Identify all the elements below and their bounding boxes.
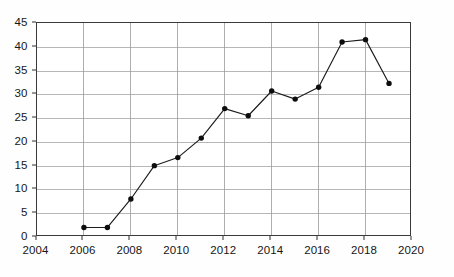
y-tick-label: 10 <box>0 182 28 194</box>
y-tick-mark <box>32 45 36 46</box>
y-tick-mark <box>32 22 36 23</box>
x-tick-label: 2012 <box>210 244 236 256</box>
y-tick-mark <box>32 164 36 165</box>
data-point-marker <box>175 155 180 160</box>
x-tick-mark <box>223 236 224 240</box>
y-tick-label: 40 <box>0 40 28 52</box>
data-point-marker <box>315 85 320 90</box>
x-tick-mark <box>176 236 177 240</box>
x-tick-mark <box>411 236 412 240</box>
x-tick-label: 2020 <box>398 244 424 256</box>
data-point-marker <box>386 81 391 86</box>
data-point-marker <box>222 106 227 111</box>
data-point-marker <box>104 225 109 230</box>
y-tick-label: 5 <box>0 206 28 218</box>
y-tick-label: 35 <box>0 64 28 76</box>
x-tick-mark <box>129 236 130 240</box>
plot-area <box>36 22 412 236</box>
x-tick-label: 2016 <box>304 244 330 256</box>
x-tick-mark <box>82 236 83 240</box>
series-markers <box>81 37 391 230</box>
data-point-marker <box>245 113 250 118</box>
y-tick-mark <box>32 117 36 118</box>
data-series-layer <box>37 23 413 237</box>
y-tick-label: 0 <box>0 230 28 242</box>
line-chart: 051015202530354045 200420062008201020122… <box>0 0 454 277</box>
data-point-marker <box>292 96 297 101</box>
y-tick-label: 30 <box>0 87 28 99</box>
data-point-marker <box>362 37 367 42</box>
y-tick-label: 45 <box>0 16 28 28</box>
data-point-marker <box>128 196 133 201</box>
data-point-marker <box>268 88 273 93</box>
x-tick-label: 2014 <box>257 244 283 256</box>
y-tick-mark <box>32 212 36 213</box>
y-tick-mark <box>32 188 36 189</box>
data-point-marker <box>198 135 203 140</box>
data-point-marker <box>339 39 344 44</box>
x-tick-mark <box>270 236 271 240</box>
x-tick-label: 2006 <box>69 244 95 256</box>
y-tick-mark <box>32 140 36 141</box>
x-tick-mark <box>35 236 36 240</box>
x-tick-label: 2010 <box>163 244 189 256</box>
x-tick-label: 2008 <box>116 244 142 256</box>
y-tick-label: 20 <box>0 135 28 147</box>
x-tick-mark <box>317 236 318 240</box>
x-tick-label: 2018 <box>351 244 377 256</box>
y-tick-mark <box>32 69 36 70</box>
x-tick-label: 2004 <box>23 244 49 256</box>
x-tick-mark <box>364 236 365 240</box>
data-point-marker <box>151 163 156 168</box>
data-point-marker <box>81 225 86 230</box>
y-tick-label: 15 <box>0 159 28 171</box>
y-tick-mark <box>32 93 36 94</box>
y-tick-label: 25 <box>0 111 28 123</box>
